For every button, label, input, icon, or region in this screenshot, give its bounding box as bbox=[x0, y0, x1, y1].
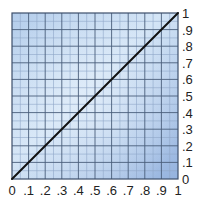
y-tick-label: .1 bbox=[182, 156, 193, 169]
y-tick-label: .9 bbox=[182, 23, 193, 36]
x-tick-label: .4 bbox=[73, 184, 84, 197]
x-tick-label: .6 bbox=[106, 184, 117, 197]
y-tick-label: .8 bbox=[182, 40, 193, 53]
y-tick-label: .7 bbox=[182, 56, 193, 69]
x-tick-label: .1 bbox=[23, 184, 34, 197]
x-tick-label: .3 bbox=[56, 184, 67, 197]
y-tick-label: 1 bbox=[182, 7, 189, 20]
y-tick-label: .2 bbox=[182, 139, 193, 152]
y-tick-label: .4 bbox=[182, 106, 193, 119]
x-tick-label: .5 bbox=[90, 184, 101, 197]
y-tick-label: .5 bbox=[182, 90, 193, 103]
x-tick-label: .7 bbox=[123, 184, 134, 197]
y-tick-label: .3 bbox=[182, 123, 193, 136]
x-tick-label: 1 bbox=[174, 184, 181, 197]
x-tick-label: 0 bbox=[8, 184, 15, 197]
x-tick-label: .9 bbox=[156, 184, 167, 197]
y-tick-label: 0 bbox=[182, 173, 189, 186]
y-tick-label: .6 bbox=[182, 73, 193, 86]
plot-area bbox=[0, 0, 202, 205]
chart: 0.1.2.3.4.5.6.7.8.91 0.1.2.3.4.5.6.7.8.9… bbox=[0, 0, 202, 205]
x-tick-label: .2 bbox=[40, 184, 51, 197]
x-tick-label: .8 bbox=[139, 184, 150, 197]
